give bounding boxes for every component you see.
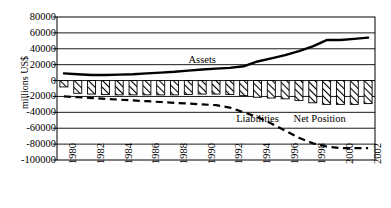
x-tick-label: 1992 (234, 143, 244, 164)
annotation-net-position: Net Position (294, 113, 346, 124)
x-tick-label: 1980 (68, 143, 78, 164)
x-tick-label: 1998 (317, 143, 327, 164)
x-tick-label: 2002 (373, 143, 383, 164)
x-tick-label: 1982 (96, 143, 106, 164)
annotation-assets: Assets (188, 54, 215, 65)
annotation-liabilities: Liabilities (236, 113, 279, 124)
x-tick-label: 1994 (262, 143, 272, 164)
x-axis-tick-labels: 1980198219841986198819901992199419961998… (0, 0, 391, 208)
x-tick-label: 1984 (124, 143, 134, 164)
x-tick-label: 1988 (179, 143, 189, 164)
x-tick-label: 1986 (151, 143, 161, 164)
x-tick-label: 2000 (345, 143, 355, 164)
x-tick-label: 1990 (207, 143, 217, 164)
chart-figure: millions US$ 800006000040000200000-20000… (0, 0, 391, 208)
x-tick-label: 1996 (290, 143, 300, 164)
